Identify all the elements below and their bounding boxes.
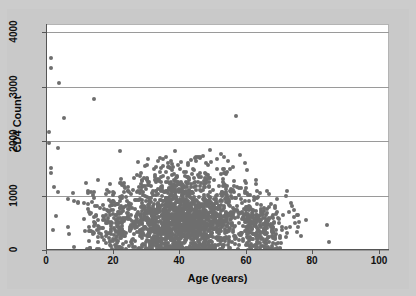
data-point	[246, 224, 250, 228]
data-point	[49, 66, 53, 70]
data-point	[52, 185, 56, 189]
data-point	[204, 179, 208, 183]
data-point	[140, 178, 144, 182]
data-point	[237, 193, 241, 197]
x-tick-60	[246, 250, 247, 254]
x-tick-label-0: 0	[31, 255, 61, 266]
data-point	[93, 204, 97, 208]
data-point	[86, 191, 90, 195]
x-axis-title: Age (years)	[46, 272, 389, 284]
data-point	[174, 176, 178, 180]
data-point	[157, 229, 161, 233]
data-point	[267, 205, 271, 209]
y-tick-label-4000: 4000	[8, 9, 19, 55]
data-point	[267, 235, 271, 239]
data-point	[243, 199, 247, 203]
data-point	[96, 240, 100, 244]
data-point	[115, 224, 119, 228]
data-point	[56, 146, 60, 150]
data-point	[208, 148, 212, 152]
data-point	[299, 234, 303, 238]
data-point	[54, 214, 58, 218]
data-point	[231, 165, 235, 169]
data-point	[51, 228, 55, 232]
data-point	[287, 210, 291, 214]
data-point	[212, 178, 216, 182]
data-point	[267, 192, 271, 196]
y-tick-label-0: 0	[8, 227, 19, 273]
data-point	[292, 208, 296, 212]
data-point	[161, 164, 165, 168]
data-point	[191, 167, 195, 171]
data-point	[276, 216, 280, 220]
data-point	[49, 171, 53, 175]
data-point	[210, 215, 214, 219]
data-point	[206, 200, 210, 204]
data-point	[281, 213, 285, 217]
data-point	[237, 243, 241, 247]
data-point	[108, 182, 112, 186]
data-point	[190, 207, 194, 211]
data-point	[186, 161, 190, 165]
data-point	[62, 116, 66, 120]
data-point	[144, 187, 148, 191]
x-tick-80	[312, 250, 313, 254]
data-point	[47, 141, 51, 145]
data-point	[215, 167, 219, 171]
data-point	[92, 190, 96, 194]
data-point	[279, 241, 283, 245]
y-axis-title: CD4 Count	[11, 74, 23, 174]
data-point	[146, 157, 150, 161]
data-point	[275, 210, 279, 214]
data-point	[159, 175, 163, 179]
data-point	[220, 194, 224, 198]
gridline-y-0	[46, 250, 389, 251]
data-point	[90, 200, 94, 204]
data-points-layer	[46, 24, 389, 250]
data-point	[221, 180, 225, 184]
data-point	[100, 226, 104, 230]
data-point	[49, 56, 53, 60]
data-point	[135, 190, 139, 194]
data-point	[164, 235, 168, 239]
data-point	[145, 176, 149, 180]
y-tick-0	[42, 250, 46, 251]
data-point	[295, 213, 299, 217]
data-point	[248, 235, 252, 239]
data-point	[234, 114, 238, 118]
data-point	[245, 168, 249, 172]
y-tick-4000	[42, 32, 46, 33]
data-point	[133, 239, 137, 243]
data-point	[121, 242, 125, 246]
data-point	[119, 211, 123, 215]
data-point	[134, 225, 138, 229]
data-point	[67, 232, 71, 236]
data-point	[82, 217, 86, 221]
data-point	[187, 189, 191, 193]
data-point	[199, 189, 203, 193]
data-point	[98, 206, 102, 210]
data-point	[152, 223, 156, 227]
data-point	[151, 242, 155, 246]
data-point	[235, 204, 239, 208]
data-point	[206, 242, 210, 246]
data-point	[224, 192, 228, 196]
data-point	[275, 197, 279, 201]
data-point	[226, 159, 230, 163]
data-point	[86, 202, 90, 206]
data-point	[278, 236, 282, 240]
data-point	[327, 240, 331, 244]
data-point	[296, 225, 300, 229]
data-point	[236, 210, 240, 214]
data-point	[116, 239, 120, 243]
y-tick-1000	[42, 196, 46, 197]
y-axis-line	[46, 24, 47, 250]
data-point	[162, 215, 166, 219]
data-point	[179, 203, 183, 207]
data-point	[57, 81, 61, 85]
data-point	[262, 227, 266, 231]
data-point	[197, 213, 201, 217]
data-point	[246, 243, 250, 247]
x-axis-line	[46, 249, 389, 250]
data-point	[230, 221, 234, 225]
